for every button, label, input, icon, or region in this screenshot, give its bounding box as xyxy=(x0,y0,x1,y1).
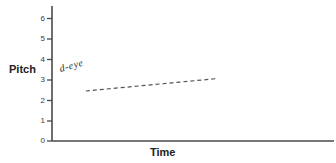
series-line-d-eye xyxy=(86,79,216,91)
tick-label-6: 6 xyxy=(41,14,46,23)
tick-label-4: 4 xyxy=(41,55,46,64)
tick-label-1: 1 xyxy=(41,116,46,125)
tick-label-2: 2 xyxy=(41,96,46,105)
tick-label-5: 5 xyxy=(41,34,46,43)
tick-label-3: 3 xyxy=(41,75,46,84)
tick-label-0: 0 xyxy=(41,136,46,145)
x-axis-title: Time xyxy=(150,146,175,158)
y-axis-title: Pitch xyxy=(9,63,36,75)
chart-figure: 6 5 4 3 2 1 0 Pitch Time d-eye xyxy=(0,0,336,163)
plot-area: 6 5 4 3 2 1 0 xyxy=(0,0,336,163)
y-axis-tick-labels: 6 5 4 3 2 1 0 xyxy=(41,14,46,146)
